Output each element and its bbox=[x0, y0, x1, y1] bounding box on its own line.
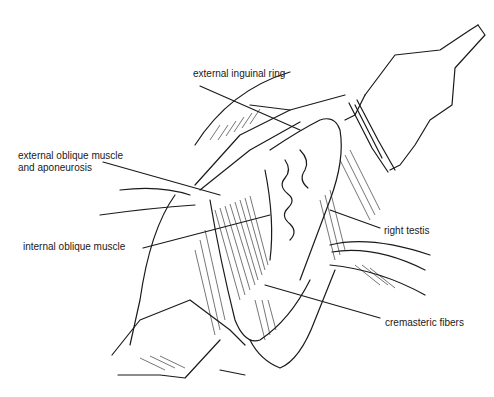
label-external-inguinal-ring: external inguinal ring bbox=[193, 68, 285, 80]
label-internal-oblique-muscle: internal oblique muscle bbox=[23, 241, 125, 253]
surgical-drawing bbox=[0, 0, 494, 397]
label-right-testis: right testis bbox=[384, 225, 430, 237]
label-external-oblique-line1: external oblique muscle bbox=[18, 150, 123, 162]
label-cremasteric-fibers: cremasteric fibers bbox=[385, 317, 464, 329]
anatomical-illustration: external inguinal ring external oblique … bbox=[0, 0, 494, 397]
label-external-oblique-line2: and aponeurosis bbox=[18, 162, 92, 174]
